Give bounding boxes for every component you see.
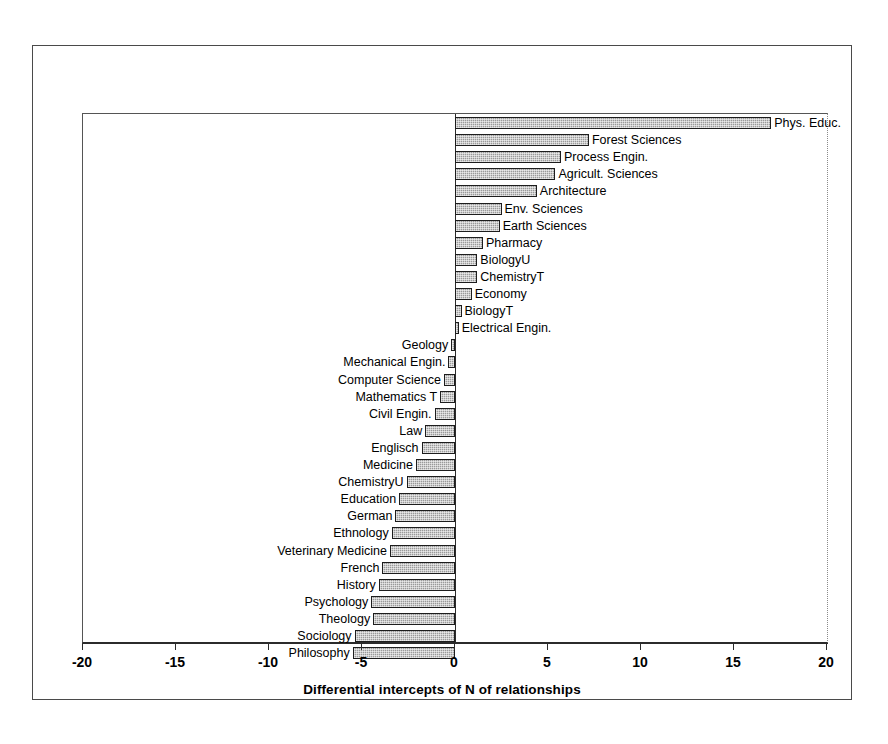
bar-label: Civil Engin. [369, 406, 432, 422]
bar-label: Englisch [371, 440, 418, 456]
bar-label: Mechanical Engin. [343, 354, 445, 370]
x-axis-tick [547, 643, 548, 650]
bar [455, 271, 477, 283]
bar [448, 356, 455, 368]
bar [444, 374, 455, 386]
bar [455, 203, 502, 215]
bar-row: Electrical Engin. [83, 320, 827, 337]
bar-row: Education [83, 491, 827, 508]
bar [455, 220, 500, 232]
bar-label: Mathematics T [355, 389, 437, 405]
bar-label: Medicine [363, 457, 413, 473]
bar-row: Mechanical Engin. [83, 354, 827, 371]
x-axis-tick [361, 643, 362, 650]
bar [353, 647, 455, 659]
bar [355, 630, 455, 642]
chart-figure: Phys. Educ.Forest SciencesProcess Engin.… [32, 45, 852, 700]
bar [435, 408, 455, 420]
bar [422, 442, 455, 454]
bar-label: ChemistryT [480, 269, 544, 285]
bar-row: French [83, 560, 827, 577]
bar [455, 134, 589, 146]
bar-row: Civil Engin. [83, 406, 827, 423]
bar-row: Architecture [83, 183, 827, 200]
bar-row: Englisch [83, 440, 827, 457]
bar-row: Computer Science [83, 372, 827, 389]
bar-label: Sociology [297, 628, 351, 644]
x-axis: -20-15-10-505101520 [82, 643, 828, 644]
bar [455, 322, 459, 334]
bar-label: Forest Sciences [592, 132, 682, 148]
plot-area: Phys. Educ.Forest SciencesProcess Engin.… [82, 113, 828, 643]
bar-label: Process Engin. [564, 149, 648, 165]
bar [382, 562, 455, 574]
bar-label: Veterinary Medicine [277, 543, 387, 559]
bar-row: BiologyT [83, 303, 827, 320]
x-axis-tick [640, 643, 641, 650]
x-axis-tick-label: 10 [632, 654, 648, 670]
bar-label: Economy [475, 286, 527, 302]
bar [455, 288, 472, 300]
bar-label: ChemistryU [338, 474, 403, 490]
bar-row: Earth Sciences [83, 218, 827, 235]
bar-label: Phys. Educ. [774, 115, 841, 131]
bar-row: Forest Sciences [83, 132, 827, 149]
bar [399, 493, 455, 505]
bar-row: Economy [83, 286, 827, 303]
bar [440, 391, 455, 403]
bar-label: Education [341, 491, 397, 507]
bar [379, 579, 455, 591]
bar-label: BiologyU [480, 252, 530, 268]
bar-row: Mathematics T [83, 389, 827, 406]
bar-row: Geology [83, 337, 827, 354]
bar-row: Pharmacy [83, 235, 827, 252]
bar [392, 527, 455, 539]
bar-row: Medicine [83, 457, 827, 474]
x-axis-tick-label: 5 [543, 654, 551, 670]
bar [455, 185, 537, 197]
bar-label: BiologyT [465, 303, 514, 319]
bar-label: Env. Sciences [505, 201, 583, 217]
bar [371, 596, 455, 608]
bar [455, 254, 477, 266]
bar [455, 151, 561, 163]
x-axis-tick [733, 643, 734, 650]
bar [395, 510, 455, 522]
x-axis-tick [82, 643, 83, 650]
bar-row: Phys. Educ. [83, 115, 827, 132]
bar-label: Pharmacy [486, 235, 542, 251]
x-axis-tick [175, 643, 176, 650]
x-axis-tick-label: 20 [818, 654, 834, 670]
x-axis-tick [268, 643, 269, 650]
bar-label: Computer Science [338, 372, 441, 388]
x-axis-tick-label: -5 [355, 654, 367, 670]
bar-label: French [341, 560, 380, 576]
bar-row: BiologyU [83, 252, 827, 269]
bar-row: Env. Sciences [83, 201, 827, 218]
bar-row: ChemistryU [83, 474, 827, 491]
bar [373, 613, 455, 625]
bar-label: Agricult. Sciences [558, 166, 657, 182]
bar-row: Agricult. Sciences [83, 166, 827, 183]
bar-label: Theology [319, 611, 370, 627]
x-axis-tick-label: 15 [725, 654, 741, 670]
bar-label: Electrical Engin. [462, 320, 552, 336]
x-axis-tick [826, 643, 827, 650]
bar [416, 459, 455, 471]
bar [425, 425, 455, 437]
bar-row: History [83, 577, 827, 594]
bar [455, 168, 555, 180]
bar-label: Psychology [304, 594, 368, 610]
bar-label: Law [399, 423, 422, 439]
x-axis-tick-label: -20 [72, 654, 92, 670]
x-axis-title: Differential intercepts of N of relation… [33, 682, 851, 697]
bar-row: Psychology [83, 594, 827, 611]
bar [455, 305, 462, 317]
bar-row: German [83, 508, 827, 525]
bar [455, 117, 771, 129]
bar-label: Architecture [540, 183, 607, 199]
bar-row: Veterinary Medicine [83, 543, 827, 560]
bar-label: Geology [402, 337, 449, 353]
x-axis-tick-label: -15 [165, 654, 185, 670]
bar [455, 237, 483, 249]
